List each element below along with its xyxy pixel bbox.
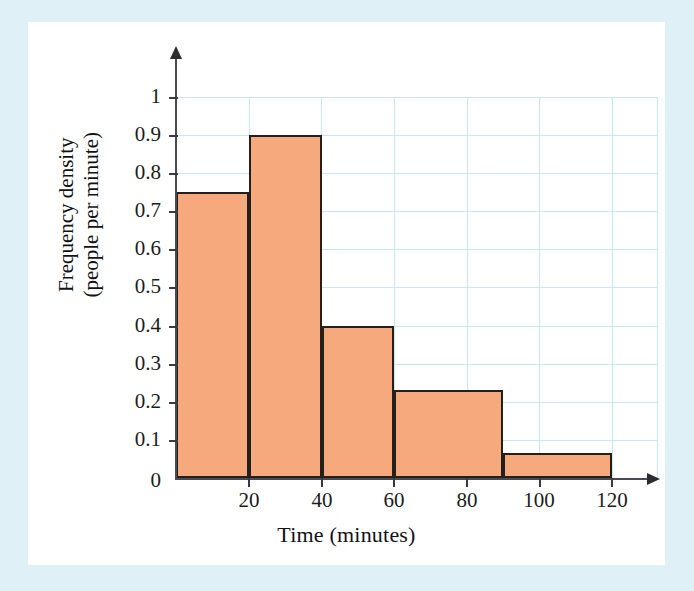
x-axis-tick	[539, 478, 541, 487]
x-axis-tick	[611, 478, 613, 487]
gridline-v	[539, 97, 540, 478]
y-axis-tick	[169, 97, 178, 99]
x-axis-tick-label: 20	[219, 490, 279, 511]
histogram-bar	[249, 135, 322, 478]
y-axis-tick-label: 0.9	[103, 124, 161, 145]
x-axis-tick	[321, 478, 323, 487]
x-axis-tick-label: 100	[509, 490, 569, 511]
histogram-bar	[322, 326, 394, 478]
y-axis-tick	[169, 402, 178, 404]
x-axis-tick-label: 60	[364, 490, 424, 511]
x-axis-tick	[248, 478, 250, 487]
y-axis-tick	[169, 249, 178, 251]
y-axis-tick	[169, 364, 178, 366]
gridline-v	[612, 97, 613, 478]
gridline-v	[657, 97, 658, 478]
x-axis-tick	[393, 478, 395, 487]
y-axis-tick	[169, 326, 178, 328]
y-axis-tick-label: 0.5	[103, 276, 161, 297]
x-axis-tick	[466, 478, 468, 487]
y-axis-tick	[169, 135, 178, 137]
y-axis-tick-label: 0.3	[103, 353, 161, 374]
y-axis-line	[175, 58, 177, 480]
histogram-bar	[503, 453, 612, 478]
histogram-bar	[176, 192, 249, 478]
x-axis-tick-label: 120	[582, 490, 642, 511]
y-axis-tick-label: 0.1	[103, 429, 161, 450]
y-axis-tick-label: 0.2	[103, 391, 161, 412]
y-axis-title-line-1: Frequency density	[54, 65, 79, 365]
figure-page: 1 0.9 0.8 0.7 0.6 0.5 0.4 0.3 0.2 0.1 0 …	[0, 0, 694, 591]
x-axis-tick-label: 40	[292, 490, 352, 511]
histogram-bar	[394, 390, 503, 478]
x-axis-tick-label: 80	[437, 490, 497, 511]
y-axis-tick-label: 0.4	[103, 315, 161, 336]
y-axis-tick	[169, 440, 178, 442]
histogram-chart: 1 0.9 0.8 0.7 0.6 0.5 0.4 0.3 0.2 0.1 0 …	[28, 22, 665, 565]
y-axis-tick	[169, 211, 178, 213]
figure-plate: 1 0.9 0.8 0.7 0.6 0.5 0.4 0.3 0.2 0.1 0 …	[28, 22, 665, 565]
y-axis-tick	[169, 287, 178, 289]
y-axis-tick	[169, 173, 178, 175]
x-axis-title: Time (minutes)	[28, 522, 665, 548]
y-axis-tick-label: 0.7	[103, 200, 161, 221]
y-axis-tick-label: 0	[103, 470, 161, 491]
x-axis-arrow-icon	[647, 473, 660, 485]
y-axis-title: Frequency density (people per minute)	[54, 65, 104, 365]
x-axis-line	[175, 478, 649, 480]
y-axis-tick-label: 0.6	[103, 238, 161, 259]
y-axis-title-line-2: (people per minute)	[79, 65, 104, 365]
y-axis-tick-label: 0.8	[103, 162, 161, 183]
y-axis-tick-label: 1	[103, 86, 161, 107]
y-axis-arrow-icon	[170, 46, 182, 59]
